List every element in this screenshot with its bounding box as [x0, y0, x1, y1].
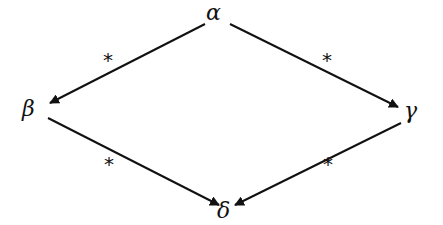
edge-alpha-beta — [50, 24, 205, 103]
node-alpha: α — [206, 2, 221, 24]
edge-gamma-delta — [235, 123, 401, 205]
edge-label-top-right: * — [322, 50, 332, 70]
diagram-canvas: α β γ δ * * * * — [0, 0, 443, 225]
edge-alpha-gamma — [230, 24, 398, 107]
edge-label-top-left: * — [103, 50, 113, 70]
node-delta: δ — [217, 200, 230, 222]
edge-label-bottom-right: * — [323, 154, 333, 174]
edge-beta-delta — [48, 118, 219, 205]
edges-layer — [0, 0, 443, 225]
node-gamma: γ — [404, 100, 417, 122]
edge-label-bottom-left: * — [104, 154, 114, 174]
node-beta: β — [22, 98, 35, 120]
